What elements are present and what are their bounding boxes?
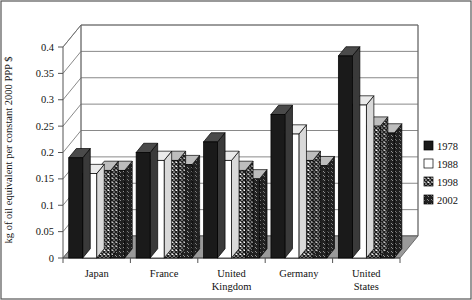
chart-legend: 1978198819982002 — [424, 141, 458, 206]
y-tick-label: 0.05 — [36, 226, 54, 237]
y-axis-title: kg of oil equivalent per constant 2000 P… — [3, 57, 14, 244]
y-tick-label: 0.3 — [41, 94, 54, 105]
y-tick-label: 0.25 — [36, 121, 54, 132]
y-tick-label: 0.1 — [41, 200, 54, 211]
legend-label-1998: 1998 — [437, 177, 458, 188]
x-axis-category-labels: JapanFranceUnitedKingdomGermanyUnitedSta… — [63, 258, 400, 292]
y-axis-title-text: kg of oil equivalent per constant 2000 P… — [3, 57, 14, 244]
bar-france-1978 — [136, 143, 158, 258]
legend-item-1978[interactable]: 1978 — [424, 141, 458, 152]
legend-label-2002: 2002 — [437, 195, 458, 206]
legend-item-2002[interactable]: 2002 — [424, 195, 458, 206]
y-tick-label: 0.4 — [41, 42, 55, 53]
y-tick-label: 0.2 — [41, 147, 54, 158]
x-category-label: United — [352, 268, 381, 279]
x-category-label: United — [217, 268, 246, 279]
x-category-label: Japan — [85, 268, 110, 279]
x-category-label: Kingdom — [212, 281, 252, 292]
x-category-label: Germany — [279, 268, 319, 279]
y-tick-label: 0.35 — [36, 68, 54, 79]
legend-item-1998[interactable]: 1998 — [424, 177, 458, 188]
x-category-label: States — [354, 281, 379, 292]
legend-label-1988: 1988 — [437, 159, 458, 170]
y-axis-ticks: 00.050.10.150.20.250.30.350.4 — [36, 42, 63, 264]
bar-germany-1978 — [271, 105, 293, 258]
bar-united-kingdom-1978 — [204, 133, 226, 258]
bar-united-states-1978 — [338, 47, 360, 258]
grouped-bar-chart: 00.050.10.150.20.250.30.350.4 JapanFranc… — [0, 0, 472, 300]
y-tick-label: 0.15 — [36, 173, 54, 184]
legend-label-1978: 1978 — [437, 141, 458, 152]
x-category-label: France — [150, 268, 179, 279]
legend-item-1988[interactable]: 1988 — [424, 159, 458, 170]
y-tick-label: 0 — [49, 253, 54, 264]
chart-container: 00.050.10.150.20.250.30.350.4 JapanFranc… — [0, 0, 472, 300]
bar-japan-1978 — [69, 149, 91, 258]
